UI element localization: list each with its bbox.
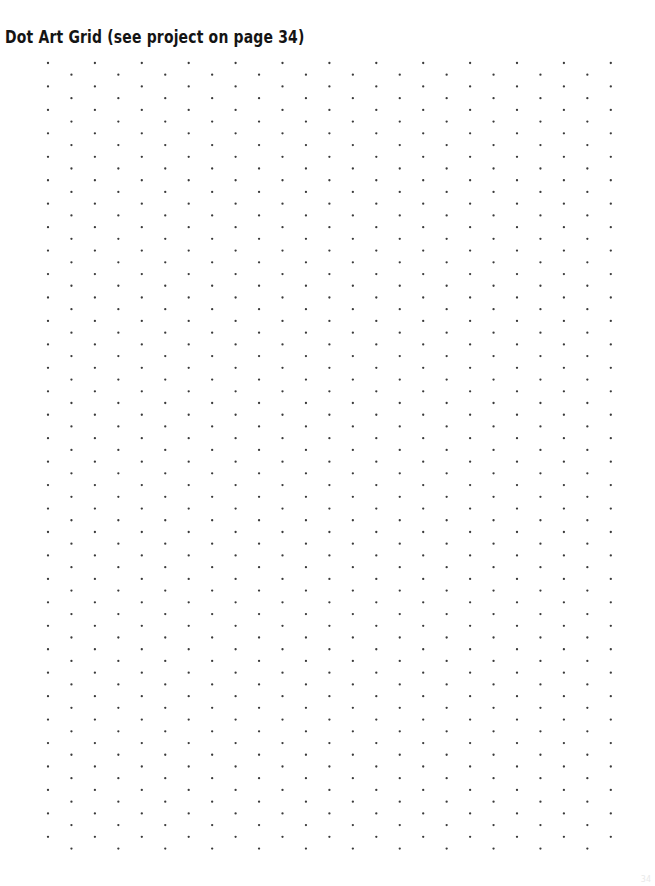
worksheet-page: Dot Art Grid (see project on page 34) 34 <box>0 0 655 886</box>
dot-grid <box>40 58 620 856</box>
dot-grid-canvas <box>40 58 620 856</box>
page-number: 34 <box>641 875 651 884</box>
page-title: Dot Art Grid (see project on page 34) <box>5 27 305 48</box>
